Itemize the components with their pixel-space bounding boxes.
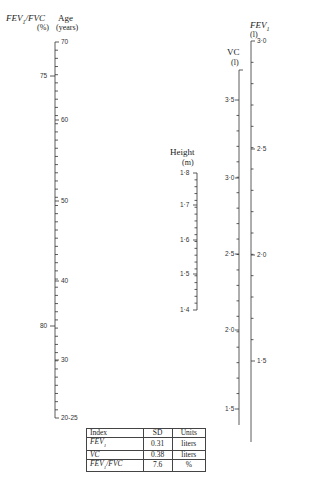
- vc-axis-title: VC: [227, 47, 240, 57]
- vc-tick-label: 3·0: [225, 174, 234, 181]
- fevfvc-axis-unit: (%): [37, 23, 49, 33]
- age-tick-label: 60: [61, 116, 68, 123]
- table-row: FEV1/FVC 7.6 %: [87, 459, 206, 472]
- table-cell-index: FEV1: [87, 438, 144, 451]
- age-axis-unit: (years): [56, 23, 78, 33]
- vc-tick-label: 2·5: [225, 250, 234, 257]
- table-cell-sd: 0.31: [143, 438, 172, 451]
- table-cell-units: liters: [172, 438, 205, 451]
- table-row: VC 0.38 liters: [87, 450, 206, 459]
- table-cell-sd: 7.6: [143, 459, 172, 472]
- fev1-tick-label: 2·0: [257, 251, 266, 258]
- table-header-units: Units: [172, 429, 205, 438]
- height-tick-label: 1·6: [180, 236, 189, 243]
- sd-table: Index SD Units FEV1 0.31 liters VC 0.38 …: [86, 428, 206, 472]
- vc-tick-label: 3·5: [225, 96, 234, 103]
- fev1-tick-label: 2·5: [257, 145, 266, 152]
- height-tick-label: 1·7: [180, 201, 189, 208]
- height-axis-unit: (m): [182, 158, 194, 168]
- table-cell-sd: 0.38: [143, 450, 172, 459]
- table-header-sd: SD: [143, 429, 172, 438]
- age-tick-label: 70: [61, 38, 68, 45]
- table-header-row: Index SD Units: [87, 429, 206, 438]
- height-tick-label: 1·5: [180, 270, 189, 277]
- table-cell-units: %: [172, 459, 205, 472]
- height-tick-label: 1·4: [180, 306, 189, 313]
- table-cell-units: liters: [172, 450, 205, 459]
- vc-axis-unit: (l): [231, 58, 239, 68]
- age-axis-title: Age: [58, 13, 73, 23]
- fevfvc-tick-label: 75: [40, 72, 47, 79]
- height-axis-title: Height: [170, 147, 195, 157]
- table-row: FEV1 0.31 liters: [87, 438, 206, 451]
- height-tick-label: 1·8: [180, 169, 189, 176]
- fevfvc-tick-label: 80: [40, 322, 47, 329]
- age-tick-label: 40: [61, 277, 68, 284]
- age-tick-label: 30: [61, 356, 68, 363]
- age-tick-label: 20-25: [61, 414, 78, 421]
- fev1-tick-label: 3·0: [257, 37, 266, 44]
- vc-tick-label: 1·5: [225, 405, 234, 412]
- vc-tick-label: 2·0: [225, 326, 234, 333]
- table-cell-index: FEV1/FVC: [87, 459, 144, 472]
- age-tick-label: 50: [61, 197, 68, 204]
- fev1-tick-label: 1·5: [257, 357, 266, 364]
